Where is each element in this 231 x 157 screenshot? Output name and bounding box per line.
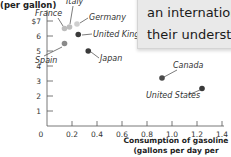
x-tick-label: 0 xyxy=(39,130,44,139)
data-point xyxy=(159,75,165,81)
leader-line xyxy=(80,18,88,23)
overlay-text-line-1: an international xyxy=(147,5,231,20)
y-tick-label: 1 xyxy=(36,107,41,116)
overlay-text-line-2: their understand xyxy=(147,27,231,42)
point-label: Canada xyxy=(173,61,204,70)
point-label: United States xyxy=(146,91,200,100)
x-axis-label-line-2: (gallons per day per capita) xyxy=(120,146,231,157)
data-point xyxy=(75,32,81,38)
data-point xyxy=(85,48,91,54)
point-label: France xyxy=(35,9,62,18)
point-label: Italy xyxy=(66,0,84,6)
y-axis: 123456$7 xyxy=(31,10,53,126)
data-point xyxy=(62,41,68,47)
data-point xyxy=(67,24,73,30)
data-point xyxy=(74,21,80,27)
leader-line xyxy=(91,52,99,58)
leader-line xyxy=(58,18,63,26)
point-label: Japan xyxy=(98,54,122,63)
point-label: Germany xyxy=(89,13,126,22)
y-tick-label: 6 xyxy=(36,32,41,41)
y-tick-label: 5 xyxy=(36,47,41,56)
leader-line xyxy=(70,6,73,24)
leader-line xyxy=(164,70,177,77)
y-tick-label: 3 xyxy=(36,77,41,86)
leader-line xyxy=(82,34,92,35)
x-tick-label: 0.4 xyxy=(91,130,103,139)
x-axis-label-line-1: Consumption of gasoline xyxy=(120,136,231,146)
y-tick-label: 2 xyxy=(36,92,41,101)
data-point xyxy=(62,26,68,32)
x-tick-label: 0.2 xyxy=(66,130,78,139)
point-label: Spain xyxy=(35,56,57,65)
y-axis-label: (per gallon) xyxy=(0,0,56,10)
text-overlay-panel: an international their understand xyxy=(137,0,231,49)
